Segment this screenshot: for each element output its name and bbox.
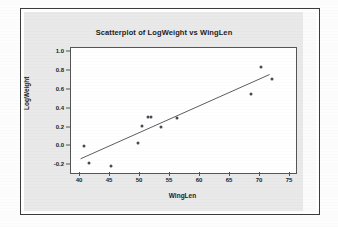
- screenshot-root: Scatterplot of LogWeight vs WingLen LogW…: [0, 0, 338, 227]
- x-tick-label: 55: [166, 177, 173, 183]
- x-tick-mark: [289, 172, 290, 176]
- plot-svg: [71, 48, 296, 173]
- data-point: [137, 141, 140, 144]
- data-point: [271, 78, 274, 81]
- data-point: [149, 116, 152, 119]
- data-point: [259, 65, 262, 68]
- data-point: [160, 125, 163, 128]
- x-tick-mark: [109, 172, 110, 176]
- y-tick-label: 0.0: [56, 142, 64, 148]
- x-tick-label: 45: [106, 177, 113, 183]
- y-tick-label: 0.6: [56, 86, 64, 92]
- x-tick-label: 65: [226, 177, 233, 183]
- y-tick-label: 0.8: [56, 67, 64, 73]
- x-tick-label: 50: [136, 177, 143, 183]
- x-tick-label: 70: [256, 177, 263, 183]
- chart-title: Scatterplot of LogWeight vs WingLen: [24, 28, 304, 37]
- x-tick-mark: [199, 172, 200, 176]
- data-point: [250, 93, 253, 96]
- y-axis-label: LogWeight: [23, 77, 30, 110]
- data-point: [109, 165, 112, 168]
- x-axis-label: WingLen: [70, 192, 295, 199]
- y-tick-label: 1.0: [56, 48, 64, 54]
- y-tick-label: 0.2: [56, 124, 64, 130]
- data-point: [82, 144, 85, 147]
- figure-right-gutter: [303, 12, 316, 211]
- y-axis-ticks: -0.20.00.20.40.60.81.0: [40, 47, 66, 172]
- x-tick-mark: [79, 172, 80, 176]
- x-tick-mark: [169, 172, 170, 176]
- y-tick-label: 0.4: [56, 105, 64, 111]
- x-tick-mark: [229, 172, 230, 176]
- data-point: [88, 161, 91, 164]
- x-tick-label: 60: [196, 177, 203, 183]
- x-tick-mark: [139, 172, 140, 176]
- x-tick-label: 40: [76, 177, 83, 183]
- data-point: [176, 117, 179, 120]
- x-tick-mark: [259, 172, 260, 176]
- x-axis-ticks: 4045505560657075: [70, 172, 295, 188]
- plot-area: [70, 47, 297, 174]
- y-tick-label: -0.2: [54, 161, 64, 167]
- x-tick-label: 75: [286, 177, 293, 183]
- data-point: [141, 124, 144, 127]
